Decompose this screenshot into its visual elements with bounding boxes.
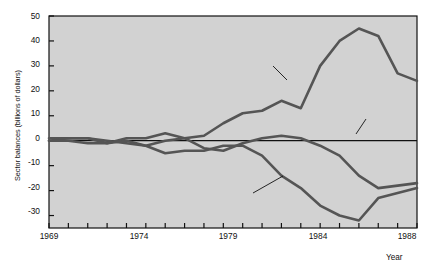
chart-figure: Sector balances (billions of dollars) 50… [0, 0, 430, 269]
plot-background [49, 16, 417, 228]
plot-area [0, 0, 430, 269]
